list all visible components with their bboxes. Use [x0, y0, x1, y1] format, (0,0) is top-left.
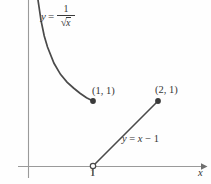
x-axis-label: x: [198, 168, 203, 179]
radicand: x: [66, 17, 71, 29]
point-marker-2-1: [155, 98, 161, 104]
fraction: 1 √ x: [57, 4, 75, 29]
line-equation-label: y = x − 1: [122, 134, 159, 145]
curve-equation-equals: =: [48, 11, 54, 22]
fraction-denominator: √ x: [59, 16, 74, 29]
curve-equation-lhs: y: [41, 11, 46, 22]
math-figure: y = 1 √ x (1, 1) (2, 1) y = x − 1 1 x: [0, 0, 211, 184]
x-tick-label-1: 1: [90, 168, 95, 179]
point-marker-1-1: [90, 98, 96, 104]
point-label-2-1: (2, 1): [155, 85, 178, 96]
line-equation-constant: 1: [154, 133, 159, 144]
curve-equation-label: y = 1 √ x: [41, 4, 75, 29]
radical: √ x: [61, 17, 72, 29]
point-label-1-1: (1, 1): [92, 86, 115, 97]
fraction-numerator: 1: [61, 4, 72, 15]
